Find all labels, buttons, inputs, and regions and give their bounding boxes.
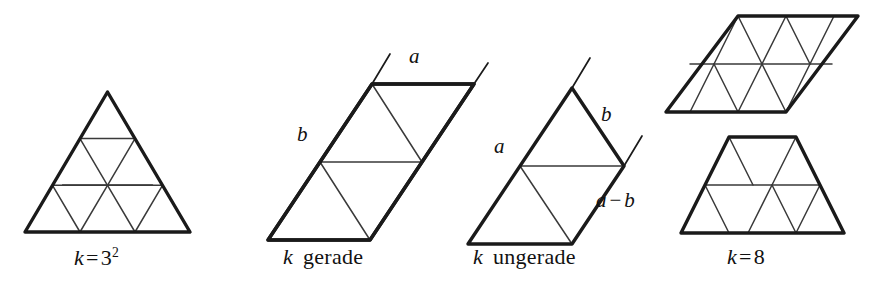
triangle-diagonal-left-4: [80, 185, 108, 232]
label-a3-text: a: [494, 134, 505, 158]
figure-k8-trapezoid: [681, 137, 844, 233]
k8-trapezoid-diagonal-b1: [729, 137, 753, 185]
k8-parallelogram-diagonal-b1: [690, 64, 714, 112]
k8-trapezoid-diagonal-d1: [705, 185, 729, 233]
label-b-text: b: [297, 122, 308, 146]
figure-triangle-k9: [25, 92, 190, 232]
k8-trapezoid-diagonal-a2: [772, 137, 796, 185]
label-amb-lhs: a: [596, 188, 607, 212]
k8-parallelogram-diagonal-a2: [762, 16, 786, 64]
caption1-variable: k: [74, 245, 84, 270]
triangle-diagonal-right-1: [80, 139, 108, 186]
label-b3-text: b: [601, 102, 612, 126]
k8-parallelogram-diagonal-d2: [762, 64, 786, 112]
label-amb-rhs: b: [624, 188, 635, 212]
label-amb-operator: −: [607, 188, 625, 212]
caption1-operator: =: [84, 245, 101, 270]
trapezoid-odd-tick-right: [624, 136, 642, 166]
k8-trapezoid-diagonal-c2: [748, 185, 772, 233]
caption1-number: 3: [101, 245, 112, 270]
caption3-variable: k: [473, 244, 483, 269]
parallelogram-even-diagonal-1: [372, 84, 422, 162]
k8-parallelogram-diagonal-c1: [738, 16, 762, 64]
k8-trapezoid-diagonal-d2: [772, 185, 796, 233]
k8-trapezoid-diagonal-c3: [796, 185, 820, 233]
label-a-text: a: [409, 44, 420, 68]
k8-parallelogram-diagonal-d1: [714, 64, 738, 112]
parallelogram-even-diagonal-2: [320, 162, 370, 240]
trapezoid-odd-tick-top: [572, 58, 590, 88]
k8-parallelogram-diagonal-b2: [738, 64, 762, 112]
label-a-top-fig2: a: [409, 46, 420, 67]
triangle-diagonal-right-4: [108, 185, 136, 232]
caption-k-equals-3-squared: k=32: [74, 246, 119, 269]
figure-board: k=32 a b k gerade b a a−b k ungerade k=8: [0, 0, 884, 288]
figure-k8-parallelogram: [666, 16, 858, 112]
figure-parallelogram-even: [268, 54, 488, 240]
caption-k-gerade: k gerade: [283, 246, 363, 268]
caption2-variable: k: [283, 244, 293, 269]
caption2-word: gerade: [303, 244, 363, 269]
triangle-diagonal-right-3: [53, 185, 81, 232]
caption3-word: ungerade: [493, 244, 576, 269]
caption-k-equals-8: k=8: [727, 246, 765, 268]
label-b-left-fig2: b: [297, 124, 308, 145]
label-a-minus-b-fig3: a−b: [596, 190, 635, 211]
k8-parallelogram-diagonal-a3: [810, 16, 834, 64]
caption4-variable: k: [727, 244, 737, 269]
triangle-diagonal-left-5: [135, 185, 163, 232]
caption-k-ungerade: k ungerade: [473, 246, 576, 268]
label-b-fig3: b: [601, 104, 612, 125]
parallelogram-even-tick-right: [474, 63, 488, 84]
triangle-diagonal-left-2: [108, 139, 136, 186]
caption4-number: 8: [754, 244, 765, 269]
caption1-exponent: 2: [112, 245, 119, 260]
triangle-outline: [25, 92, 190, 232]
parallelogram-even-tick-top: [372, 54, 390, 84]
k8-parallelogram-diagonal-c2: [786, 16, 810, 64]
label-a-fig3: a: [494, 136, 505, 157]
caption4-operator: =: [737, 244, 754, 269]
trapezoid-odd-diagonal-1: [520, 166, 572, 244]
